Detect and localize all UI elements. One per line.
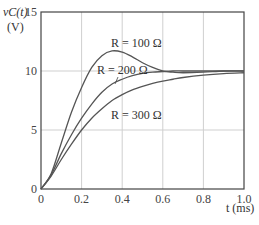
series-label-r200: R = 200 Ω [97,63,148,77]
series-label-r300: R = 300 Ω [111,108,162,122]
x-tick-labels: 00.20.40.60.81.0 [38,192,252,206]
series-label-r100: R = 100 Ω [111,36,162,50]
y-tick-labels: 051015 [25,5,37,196]
y-tick-label: 5 [31,123,37,137]
x-tick-label: 0.2 [74,192,89,206]
y-axis-label-line2: (V) [7,20,24,34]
x-tick-label: 0.6 [155,192,170,206]
x-tick-label: 0.4 [115,192,130,206]
chart: 00.20.40.60.81.0 051015 vC(t) (V) t (ms)… [0,0,259,225]
y-tick-label: 0 [31,182,37,196]
curve-r300 [41,73,244,189]
x-tick-label: 0 [38,192,44,206]
y-axis-label-line1: vC(t) [3,5,28,19]
x-tick-label: 0.8 [196,192,211,206]
x-axis-label: t (ms) [226,201,254,215]
y-tick-label: 10 [25,64,37,78]
